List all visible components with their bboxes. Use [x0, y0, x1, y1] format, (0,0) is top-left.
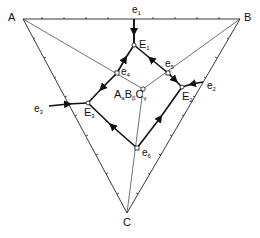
boundary-curves: [49, 19, 203, 148]
vertex-label-c: C: [123, 217, 131, 228]
label-E3: E3: [84, 107, 95, 119]
diagram-lines: [0, 0, 260, 238]
label-E1: E1: [139, 39, 150, 51]
label-E2: E2: [182, 91, 193, 103]
label-e2: e2: [207, 81, 216, 92]
vertex-label-a: A: [8, 12, 15, 23]
vertex-label-b: B: [244, 12, 251, 23]
label-e1: e1: [132, 5, 141, 16]
label-e5: e5: [165, 59, 174, 70]
label-e3: e3: [34, 104, 43, 115]
label-e4: e4: [121, 67, 130, 78]
ternary-phase-diagram: A B C e1 e2 e3 e4 e5 e6 E1 E2 E3 AaBβCγ: [0, 0, 260, 238]
tick-marks: [33, 17, 229, 194]
compound-label: AaBβCγ: [114, 89, 146, 101]
label-e6: e6: [142, 148, 151, 159]
